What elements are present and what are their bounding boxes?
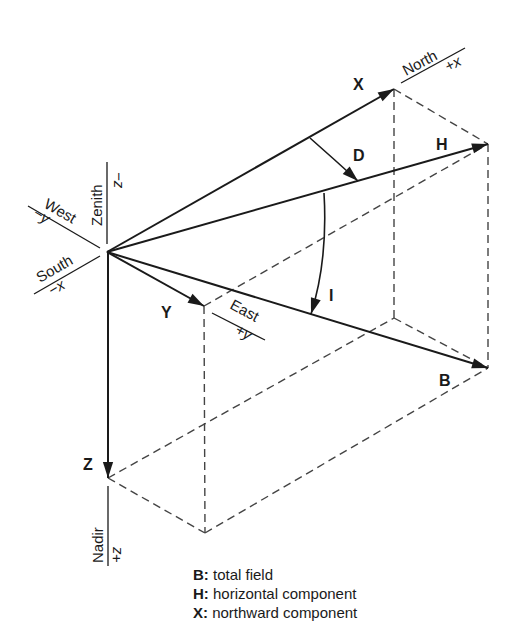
vector-x (107, 89, 394, 252)
label-i: I (329, 287, 333, 304)
label-east-axis: +y (233, 321, 257, 344)
label-b: B (439, 372, 451, 389)
vectors (107, 89, 488, 478)
dash-y-down (204, 306, 205, 533)
declination-arc (310, 138, 358, 181)
legend-text: total field (209, 566, 273, 583)
dash-y-to-h (204, 144, 488, 306)
label-east: East (228, 296, 263, 325)
legend-text: horizontal component (209, 585, 357, 602)
legend-key: H: (193, 585, 209, 602)
legend-item-x: X: northward component (193, 603, 357, 622)
vector-y (107, 252, 204, 306)
label-north: North (399, 46, 439, 78)
label-north-axis: +x (441, 52, 464, 75)
legend-item-h: H: horizontal component (193, 584, 357, 603)
legend-text: northward component (208, 604, 357, 621)
label-zenith: Zenith (88, 184, 105, 226)
dash-yz-to-b (205, 368, 488, 533)
label-nadir-axis: +z (107, 546, 124, 563)
dash-z-to-xz (108, 318, 394, 478)
angle-arcs (310, 138, 358, 314)
legend: B: total field H: horizontal component X… (193, 565, 357, 622)
label-z: Z (83, 456, 93, 473)
legend-key: B: (193, 566, 209, 583)
label-d: D (353, 147, 365, 164)
field-components-diagram: X H D I Y B Z North +x Zenith −z West −y… (0, 0, 519, 631)
label-nadir: Nadir (89, 527, 106, 563)
legend-item-b: B: total field (193, 565, 357, 584)
vector-h (107, 144, 488, 252)
legend-key: X: (193, 604, 208, 621)
inclination-arc (311, 193, 325, 314)
label-x: X (353, 76, 364, 93)
label-y: Y (161, 304, 172, 321)
dash-z-to-yz (108, 478, 205, 533)
label-zenith-axis: −z (111, 172, 128, 189)
label-h: H (436, 136, 448, 153)
